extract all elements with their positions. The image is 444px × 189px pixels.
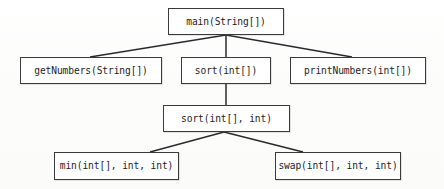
edge-sort2-min (150, 132, 224, 152)
node-swap-label: swap(int[], int, int) (278, 161, 397, 171)
node-print-numbers-label: printNumbers(int[]) (304, 66, 412, 76)
node-swap[interactable]: swap(int[], int, int) (275, 152, 401, 180)
edge-main-printNumbers (226, 35, 352, 57)
node-sort-int-array-label: sort(int[]) (195, 66, 257, 76)
node-sort-int-array[interactable]: sort(int[]) (181, 57, 271, 84)
node-get-numbers-label: getNumbers(String[]) (34, 66, 148, 76)
node-main-label: main(String[]) (186, 17, 265, 27)
node-main[interactable]: main(String[]) (168, 8, 284, 35)
edge-sort2-swap (224, 132, 303, 152)
node-min[interactable]: min(int[], int, int) (54, 152, 179, 180)
call-graph-diagram: main(String[]) getNumbers(String[]) sort… (0, 0, 444, 189)
node-sort-int-array-int[interactable]: sort(int[], int) (163, 105, 290, 132)
edge-main-getNumbers (90, 35, 226, 57)
node-min-label: min(int[], int, int) (60, 161, 174, 171)
node-get-numbers[interactable]: getNumbers(String[]) (20, 57, 162, 84)
node-sort-int-array-int-label: sort(int[], int) (181, 114, 272, 124)
node-print-numbers[interactable]: printNumbers(int[]) (290, 57, 426, 84)
